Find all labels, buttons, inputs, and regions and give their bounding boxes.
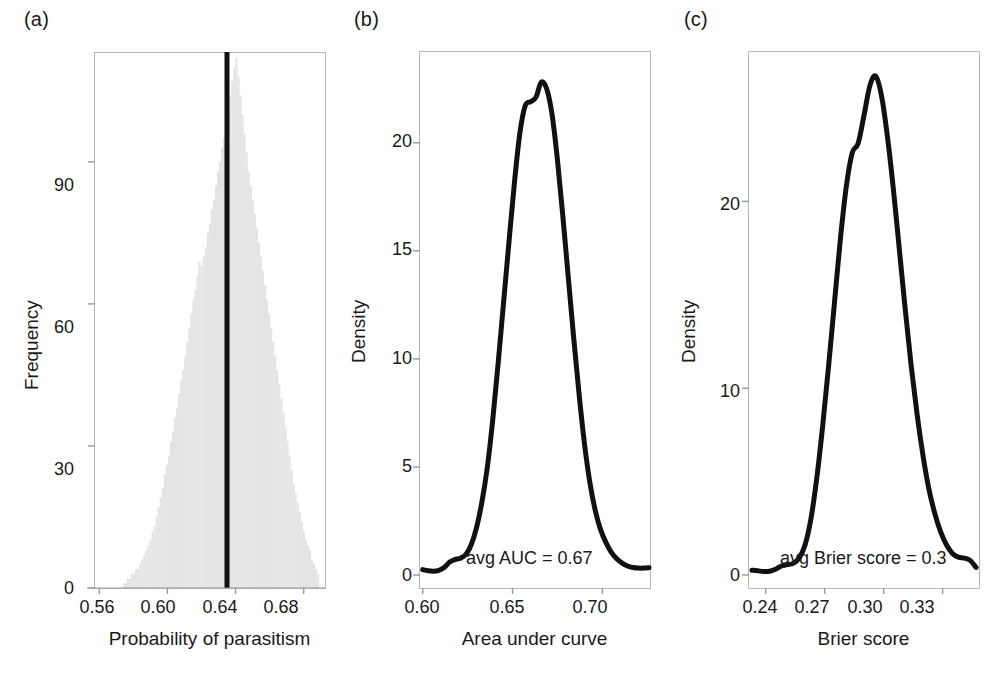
panel-c-frame [749, 52, 980, 589]
panel-c-yaxis-title: Density [678, 300, 700, 363]
panel-b-annotation-avg-auc: avg AUC = 0.67 [466, 548, 593, 569]
panel-c-xtick-033: 0.33 [899, 597, 934, 618]
panel-b-frame [420, 52, 651, 589]
panel-c-xaxis-title: Brier score [748, 628, 979, 650]
panel-a-xaxis-title: Probability of parasitism [94, 628, 325, 650]
panel-b-ytick-5: 5 [354, 456, 412, 477]
panel-c-ytick-20: 20 [684, 194, 740, 215]
panel-c-xtick-024: 0.24 [742, 597, 777, 618]
panel-a-xtick-064: 0.64 [202, 597, 237, 618]
panel-a-ytick-0: 0 [28, 578, 74, 599]
panel-c: (c) 0 10 20 0.24 0.27 0.30 0.33 Brier sc… [660, 0, 997, 684]
panel-b-xtick-070: 0.70 [572, 597, 607, 618]
panel-a: (a) 0 30 60 90 0.56 0.60 0.64 0.68 Proba… [0, 0, 340, 684]
panel-c-annotation-avg-brier: avg Brier score = 0.3 [780, 548, 947, 569]
panel-b-xtick-060: 0.60 [404, 597, 439, 618]
panel-c-ytick-10: 10 [684, 381, 740, 402]
panel-a-xtick-060: 0.60 [140, 597, 175, 618]
panel-a-xtick-068: 0.68 [263, 597, 298, 618]
panel-a-ytick-90: 90 [28, 175, 74, 196]
panel-a-xtick-056: 0.56 [79, 597, 114, 618]
panel-a-ytick-30: 30 [28, 459, 74, 480]
panel-b-ytick-0: 0 [354, 565, 412, 586]
panel-b: (b) 0 5 10 15 20 0.60 0.65 0.70 Area und… [330, 0, 660, 684]
panel-c-ytick-0: 0 [684, 565, 740, 586]
panel-b-ytick-20: 20 [354, 131, 412, 152]
panel-c-xtick-030: 0.30 [847, 597, 882, 618]
panel-c-xtick-027: 0.27 [794, 597, 829, 618]
panel-b-xaxis-title: Area under curve [419, 628, 650, 650]
panel-b-xtick-065: 0.65 [489, 597, 524, 618]
panel-b-yaxis-title: Density [348, 300, 370, 363]
panel-b-ytick-15: 15 [354, 239, 412, 260]
figure-three-panel-model-performance: (a) 0 30 60 90 0.56 0.60 0.64 0.68 Proba… [0, 0, 997, 684]
panel-a-yaxis-title: Frequency [21, 300, 43, 390]
